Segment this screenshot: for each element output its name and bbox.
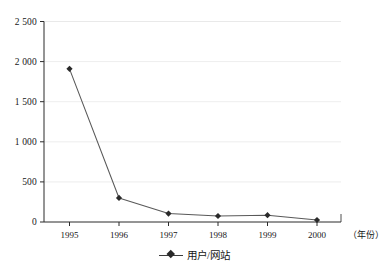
x-tick-label-2000: 2000 (294, 230, 340, 240)
data-point-marker (116, 195, 122, 201)
legend-item-users-per-site: 用户/网站 (159, 248, 230, 262)
data-point-marker (66, 66, 72, 72)
x-tick-label-1998: 1998 (195, 230, 241, 240)
line-chart: 2 500 2 000 1 500 1 000 500 0 1995 1996 … (0, 0, 389, 274)
data-point-marker (264, 212, 270, 218)
y-tick-label-0: 0 (0, 217, 37, 227)
y-axis (40, 22, 44, 223)
legend-label: 用户/网站 (187, 249, 230, 262)
chart-legend: 用户/网站 (0, 247, 389, 262)
series-line-users-per-site (70, 69, 318, 220)
y-tick-label-1500: 1 500 (0, 97, 37, 107)
x-tick-label-1997: 1997 (146, 230, 192, 240)
x-tick-label-1996: 1996 (96, 230, 142, 240)
series-markers (66, 66, 320, 223)
y-tick-label-2000: 2 000 (0, 57, 37, 67)
gridlines (44, 22, 341, 182)
data-point-marker (165, 210, 171, 216)
y-tick-label-1000: 1 000 (0, 137, 37, 147)
x-axis-unit-label: （年份） (348, 230, 384, 240)
x-axis (44, 222, 341, 226)
x-tick-label-1999: 1999 (245, 230, 291, 240)
y-tick-label-2500: 2 500 (0, 17, 37, 27)
data-point-marker (215, 213, 221, 219)
x-tick-label-1995: 1995 (47, 230, 93, 240)
y-tick-label-500: 500 (0, 177, 37, 187)
legend-line-marker-icon (159, 250, 183, 261)
